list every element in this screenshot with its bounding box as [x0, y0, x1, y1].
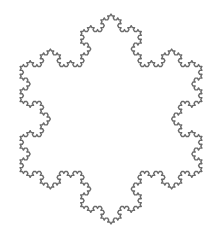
koch-snowflake-outline [20, 14, 202, 224]
koch-snowflake-figure [0, 0, 218, 240]
diagram-canvas: Koch snowflake [0, 0, 218, 240]
